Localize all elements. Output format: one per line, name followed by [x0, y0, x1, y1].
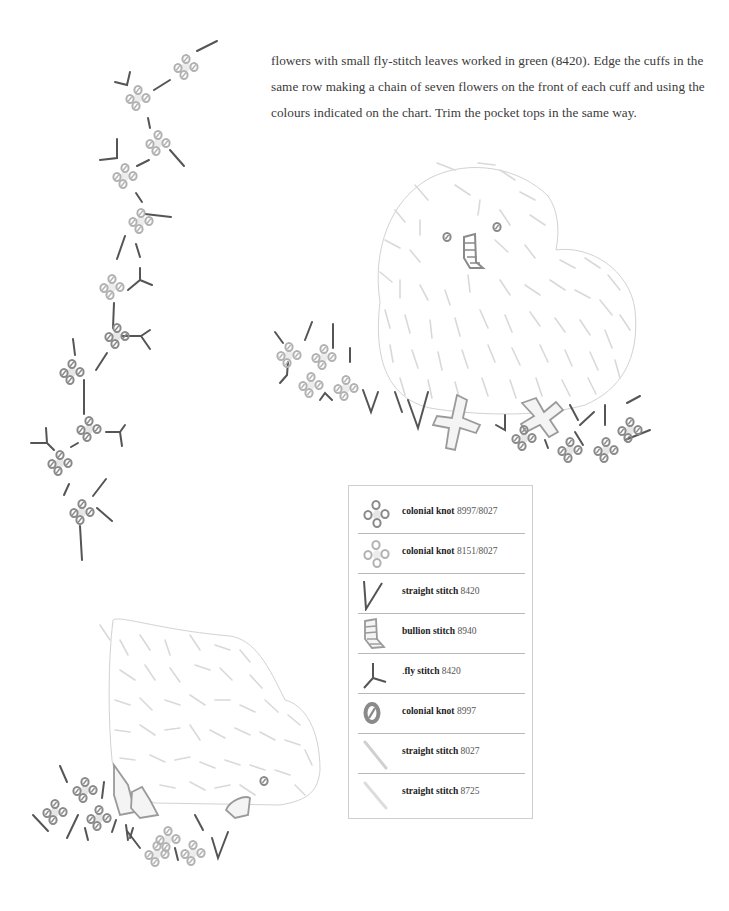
- legend-label: straight stitch 8420: [402, 586, 480, 596]
- legend-row-colonial-knot-8997-8027: colonial knot 8997/8027: [358, 494, 525, 534]
- bullion-stitch-icon: [360, 617, 396, 651]
- fly-stitch-icon: [360, 657, 396, 691]
- colonial-knot-single-icon: [360, 697, 396, 731]
- legend-label: colonial knot 8997: [402, 706, 476, 716]
- legend-row-straight-stitch-8725: straight stitch 8725: [358, 774, 525, 814]
- legend-label: bullion stitch 8940: [402, 626, 476, 636]
- straight-stitch-pale-icon: [360, 777, 396, 811]
- legend-label: .fly stitch 8420: [402, 666, 461, 676]
- colonial-knot-dark-flower-icon: [360, 497, 396, 531]
- legend-row-bullion-stitch-8940: bullion stitch 8940: [358, 614, 525, 654]
- legend-label: colonial knot 8151/8027: [402, 546, 498, 556]
- stitch-legend: colonial knot 8997/8027 colonial knot 81…: [348, 485, 533, 819]
- legend-row-colonial-knot-8151-8027: colonial knot 8151/8027: [358, 534, 525, 574]
- legend-row-fly-stitch-8420: .fly stitch 8420: [358, 654, 525, 694]
- straight-stitch-v-icon: [360, 577, 396, 611]
- straight-stitch-light-icon: [360, 737, 396, 771]
- hen-illustration-bottom: [33, 619, 320, 866]
- legend-row-straight-stitch-8027: straight stitch 8027: [358, 734, 525, 774]
- flower-chain-cuff: [31, 41, 217, 560]
- legend-label: straight stitch 8027: [402, 746, 480, 756]
- legend-row-colonial-knot-8997: colonial knot 8997: [358, 694, 525, 734]
- chick-illustration-top: [275, 163, 650, 462]
- legend-label: colonial knot 8997/8027: [402, 506, 498, 516]
- legend-row-straight-stitch-8420: straight stitch 8420: [358, 574, 525, 614]
- colonial-knot-light-flower-icon: [360, 537, 396, 571]
- legend-label: straight stitch 8725: [402, 786, 480, 796]
